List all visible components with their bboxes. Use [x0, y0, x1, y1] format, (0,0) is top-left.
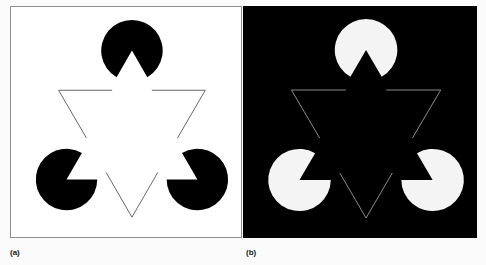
triangle-edge-left-upper — [59, 90, 87, 138]
panel-a — [10, 6, 242, 238]
panel-a-top-inducer — [101, 20, 162, 77]
panel-b-bottom-left-inducer — [268, 149, 331, 211]
panel-a-bottom-right-inducer — [167, 149, 228, 210]
triangle-edge-right-upper — [412, 90, 440, 138]
panel-a-caption: (a) — [10, 249, 20, 257]
panel-b-caption: (b) — [246, 249, 256, 257]
triangle-edge-left-lower — [106, 173, 132, 218]
panel-a-illustration — [11, 7, 241, 237]
triangle-edge-left-upper — [291, 90, 319, 138]
panel-b-bottom-right-inducer — [401, 149, 464, 211]
panel-b-illustration — [243, 6, 477, 238]
panel-b-top-inducer — [335, 19, 398, 77]
triangle-edge-right-upper — [178, 90, 206, 138]
triangle-edge-right-lower — [132, 173, 158, 218]
triangle-edge-left-lower — [340, 173, 366, 218]
panel-b — [243, 6, 477, 238]
figure-page: (a) (b) — [0, 0, 486, 265]
panel-a-bottom-left-inducer — [36, 149, 97, 210]
triangle-edge-right-lower — [366, 173, 392, 218]
